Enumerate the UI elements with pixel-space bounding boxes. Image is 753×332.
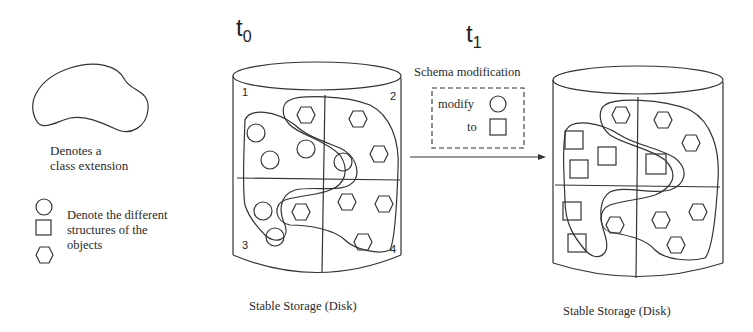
modify-from-circle-icon	[490, 96, 506, 112]
t1-subscript: 1	[473, 34, 482, 51]
structures-label-line3: objects	[67, 238, 167, 253]
t1-base: t	[466, 20, 473, 47]
to-label: to	[467, 120, 477, 135]
class-extension-label-line1: Denotes a	[50, 143, 128, 158]
time-label-t1: t1	[466, 20, 482, 52]
schema-modification-title: Schema modification	[414, 65, 521, 80]
modify-label: modify	[438, 97, 474, 112]
time-label-t0: t0	[236, 14, 252, 46]
class-extension-label-line2: class extension	[50, 158, 128, 173]
quadrant-label-1: 1	[242, 86, 248, 98]
disk-t0	[233, 62, 401, 273]
modify-to-square-icon	[490, 119, 506, 135]
t0-subscript: 0	[243, 28, 252, 45]
class-extension-blob-icon	[33, 64, 148, 131]
legend-hexagon-icon	[36, 247, 53, 263]
quadrant-label-4: 4	[390, 243, 396, 255]
disk-t0-caption: Stable Storage (Disk)	[249, 299, 357, 314]
arrow-head-icon	[538, 154, 546, 160]
disk-t1-caption: Stable Storage (Disk)	[563, 304, 671, 319]
quadrant-label-2: 2	[390, 90, 396, 102]
legend-circle-icon	[36, 199, 52, 215]
legend-square-icon	[36, 220, 51, 235]
class-extension-label: Denotes a class extension	[50, 143, 128, 173]
disk-t1	[553, 66, 723, 278]
t0-base: t	[236, 14, 243, 41]
structures-label: Denote the different structures of the o…	[67, 208, 167, 253]
structures-label-line2: structures of the	[67, 223, 167, 238]
structures-label-line1: Denote the different	[67, 208, 167, 223]
quadrant-label-3: 3	[242, 239, 248, 251]
